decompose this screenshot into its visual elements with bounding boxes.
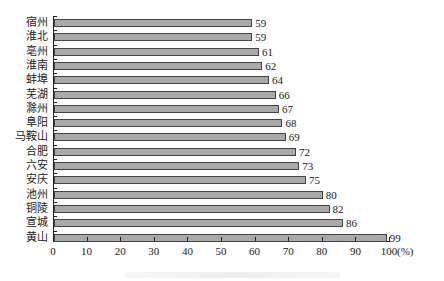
x-tick-label: 60 — [240, 245, 270, 257]
bar — [54, 105, 279, 113]
category-label: 芜湖 — [0, 88, 48, 102]
y-tick — [53, 231, 57, 232]
bar-value-label: 86 — [346, 216, 357, 230]
x-tick-label: 30 — [139, 245, 169, 257]
x-tick — [255, 237, 256, 241]
category-label: 六安 — [0, 159, 48, 173]
y-tick — [53, 45, 57, 46]
bar-value-label: 59 — [255, 30, 266, 44]
category-label: 阜阳 — [0, 116, 48, 130]
x-axis-unit: (%) — [397, 245, 414, 257]
bar-value-label: 73 — [302, 159, 313, 173]
y-tick — [53, 145, 57, 146]
x-tick-label: 0 — [38, 245, 68, 257]
x-tick — [187, 237, 188, 241]
bar — [54, 33, 252, 41]
bar — [54, 219, 343, 227]
bar — [54, 76, 269, 84]
x-tick-label: 90 — [340, 245, 370, 257]
y-tick — [53, 30, 57, 31]
category-label: 黄山 — [0, 231, 48, 245]
x-tick — [221, 237, 222, 241]
bar — [54, 162, 299, 170]
x-tick — [87, 237, 88, 241]
bar-value-label: 82 — [333, 202, 344, 216]
bar-value-label: 99 — [390, 231, 401, 245]
x-tick-label: 70 — [273, 245, 303, 257]
y-tick — [53, 88, 57, 89]
x-tick-label: 50 — [206, 245, 236, 257]
category-label: 蚌埠 — [0, 73, 48, 87]
bar-value-label: 59 — [255, 16, 266, 30]
category-label: 宣城 — [0, 216, 48, 230]
bar-value-label: 66 — [279, 88, 290, 102]
y-tick — [53, 116, 57, 117]
category-label: 池州 — [0, 188, 48, 202]
x-tick — [120, 237, 121, 241]
y-tick — [53, 202, 57, 203]
y-tick — [53, 102, 57, 103]
figure-caption-faded — [125, 272, 340, 278]
category-label: 合肥 — [0, 145, 48, 159]
category-label: 滁州 — [0, 102, 48, 116]
x-tick — [322, 237, 323, 241]
y-tick — [53, 130, 57, 131]
y-tick — [53, 188, 57, 189]
bar-chart: 宿州59淮北59亳州61淮南62蚌埠64芜湖66滁州67阜阳68马鞍山69合肥7… — [0, 0, 444, 281]
x-tick-label: 40 — [172, 245, 202, 257]
bar-value-label: 62 — [265, 59, 276, 73]
bar — [54, 133, 286, 141]
y-tick — [53, 216, 57, 217]
bar-value-label: 67 — [282, 102, 293, 116]
x-tick — [53, 237, 54, 241]
bar — [54, 91, 276, 99]
bar-value-label: 61 — [262, 45, 273, 59]
bar — [54, 191, 323, 199]
y-tick — [53, 173, 57, 174]
bar-value-label: 68 — [285, 116, 296, 130]
x-tick-label: 20 — [105, 245, 135, 257]
y-tick — [53, 16, 57, 17]
bar — [54, 205, 330, 213]
category-label: 亳州 — [0, 45, 48, 59]
bar-value-label: 80 — [326, 188, 337, 202]
x-tick — [288, 237, 289, 241]
category-label: 马鞍山 — [0, 130, 48, 144]
y-tick — [53, 159, 57, 160]
x-tick-label: 80 — [307, 245, 337, 257]
category-label: 宿州 — [0, 16, 48, 30]
category-label: 淮南 — [0, 59, 48, 73]
bar — [54, 176, 306, 184]
bar-value-label: 69 — [289, 130, 300, 144]
bar — [54, 19, 252, 27]
x-tick — [154, 237, 155, 241]
bar-value-label: 72 — [299, 145, 310, 159]
x-tick-label: 10 — [72, 245, 102, 257]
bar — [54, 119, 282, 127]
y-tick — [53, 59, 57, 60]
category-label: 铜陵 — [0, 202, 48, 216]
x-tick — [389, 237, 390, 241]
bar — [54, 62, 262, 70]
bar — [54, 48, 259, 56]
bar — [54, 148, 296, 156]
x-tick — [355, 237, 356, 241]
category-label: 淮北 — [0, 30, 48, 44]
bar-value-label: 64 — [272, 73, 283, 87]
bar-value-label: 75 — [309, 173, 320, 187]
category-label: 安庆 — [0, 173, 48, 187]
y-tick — [53, 73, 57, 74]
